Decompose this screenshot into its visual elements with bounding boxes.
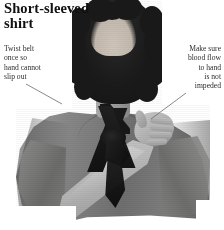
instruction-figure-page: Short-sleeved shirt Twist belt once so h… [0,0,224,230]
leader-line-right [151,93,186,119]
callout-left-line-4: slip out [4,72,41,81]
page-title-line-2: shirt [4,16,108,31]
callout-right: Make sure blood flow to hand is not impe… [188,44,221,90]
callout-right-line-4: is not [188,72,221,81]
callout-right-line-2: blood flow [188,53,221,62]
callout-right-line-3: to hand [188,63,221,72]
callout-left: Twist belt once so hand cannot slip out [4,44,41,81]
page-title: Short-sleeved shirt [4,1,108,31]
callout-leader-lines [0,0,224,230]
page-title-line-1: Short-sleeved [4,1,108,16]
callout-left-line-1: Twist belt [4,44,41,53]
callout-left-line-2: once so [4,53,41,62]
callout-right-line-1: Make sure [188,44,221,53]
callout-right-line-5: impeded [188,81,221,90]
leader-line-left [26,84,62,104]
callout-left-line-3: hand cannot [4,63,41,72]
